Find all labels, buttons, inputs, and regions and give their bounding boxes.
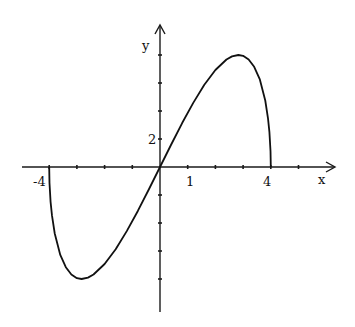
x-axis-label: x [318,172,326,187]
x-tick-label-neg4: -4 [33,174,46,189]
x-tick-label-4: 4 [263,174,271,189]
x-tick-label-1: 1 [186,174,194,189]
x-axis [22,162,335,172]
y-axis-label: y [141,38,150,53]
function-plot: x y -4 1 4 2 [0,0,355,327]
y-tick-label-2: 2 [148,132,156,147]
